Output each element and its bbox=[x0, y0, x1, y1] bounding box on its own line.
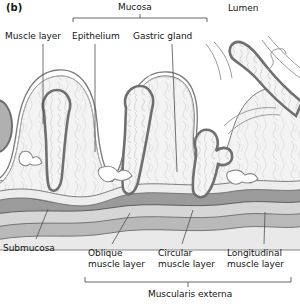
label-circular-muscle-layer: Circular muscle layer bbox=[158, 248, 215, 269]
label-lumen: Lumen bbox=[228, 3, 258, 14]
label-oblique-muscle-layer: Oblique muscle layer bbox=[88, 248, 145, 269]
label-epithelium: Epithelium bbox=[72, 31, 120, 42]
label-longitudinal-muscle-layer: Longitudinal muscle layer bbox=[227, 248, 284, 269]
bracket-label-muscularis-externa: Muscularis externa bbox=[148, 289, 232, 300]
label-gastric-gland: Gastric gland bbox=[133, 31, 192, 42]
bracket-label-mucosa: Mucosa bbox=[118, 2, 152, 13]
label-muscle-layer: Muscle layer bbox=[5, 31, 61, 42]
panel-label: (b) bbox=[6, 3, 22, 14]
label-submucosa: Submucosa bbox=[3, 243, 55, 254]
